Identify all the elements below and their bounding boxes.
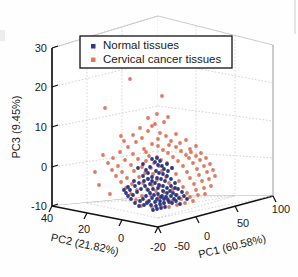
data-point	[181, 185, 185, 189]
data-point	[169, 177, 173, 181]
data-point	[154, 169, 158, 173]
data-point	[207, 177, 211, 181]
data-point	[169, 139, 173, 143]
data-point	[167, 205, 171, 209]
data-point	[141, 174, 145, 178]
data-point	[133, 184, 137, 188]
data-point	[163, 205, 167, 209]
data-point	[144, 159, 148, 163]
data-point	[213, 174, 217, 178]
left-edge-artifact	[0, 30, 5, 41]
data-point	[150, 124, 154, 128]
data-point	[136, 157, 140, 161]
data-point	[195, 167, 199, 171]
data-point	[166, 169, 170, 173]
data-point	[159, 206, 163, 210]
data-point	[155, 207, 159, 211]
data-point	[196, 193, 200, 197]
data-point	[198, 158, 202, 162]
data-point	[182, 194, 186, 198]
data-point	[138, 126, 142, 130]
y-tick-0: 40	[41, 212, 53, 224]
data-point	[137, 204, 141, 208]
data-point	[142, 179, 146, 183]
data-point	[178, 141, 182, 145]
data-point	[211, 168, 215, 172]
data-point	[208, 162, 212, 166]
data-point	[197, 173, 201, 177]
data-point	[129, 163, 133, 167]
data-point	[150, 142, 154, 146]
data-point	[180, 190, 184, 194]
data-point	[149, 203, 153, 207]
x-tick-1: 0	[204, 230, 210, 242]
data-point	[174, 132, 178, 136]
data-point	[110, 168, 114, 172]
data-point	[152, 193, 156, 197]
data-point	[164, 134, 168, 138]
z-tick-0: 30	[35, 42, 47, 54]
data-point	[191, 199, 195, 203]
data-point	[116, 164, 120, 168]
data-point	[150, 179, 154, 183]
data-point	[162, 120, 166, 124]
data-point	[119, 180, 123, 184]
data-point	[156, 144, 160, 148]
data-point	[165, 174, 169, 178]
data-point	[155, 112, 159, 116]
data-point	[131, 152, 135, 156]
data-point	[153, 200, 157, 204]
legend-label-cervical-cancer-tissues: Cervical cancer tissues	[103, 53, 221, 65]
data-point	[169, 184, 173, 188]
data-point	[170, 166, 174, 170]
z-tick-3: 0	[41, 161, 47, 173]
data-point	[174, 172, 178, 176]
data-point	[143, 184, 147, 188]
legend-box[interactable]: Normal tissues Cervical cancer tissues	[80, 36, 232, 68]
scatter3d-plot: 30 20 10 0 -10 PC3 (9.45%) 40 20 0 -20 P…	[0, 0, 298, 277]
data-point	[156, 137, 160, 141]
data-point	[166, 151, 170, 155]
data-point	[187, 156, 191, 160]
data-point	[204, 156, 208, 160]
data-point	[173, 181, 177, 185]
z-axis-title: PC3 (9.45%)	[10, 96, 22, 159]
data-point	[106, 161, 110, 165]
data-point	[139, 187, 143, 191]
data-point	[159, 177, 163, 181]
data-point	[137, 181, 141, 185]
data-point	[141, 162, 145, 166]
data-point	[151, 208, 155, 212]
data-point	[174, 199, 178, 203]
legend-marker-normal-tissues	[91, 44, 96, 49]
data-point	[144, 194, 148, 198]
data-point	[146, 116, 150, 120]
data-point	[144, 168, 148, 172]
data-point	[160, 194, 164, 198]
data-point	[160, 164, 164, 168]
data-point	[122, 188, 126, 192]
z-tick-2: 10	[35, 121, 47, 133]
data-point	[93, 170, 97, 174]
data-point	[202, 164, 206, 168]
z-tick-4: -10	[31, 200, 47, 212]
data-point	[183, 201, 187, 205]
data-point	[135, 190, 139, 194]
data-point	[178, 202, 182, 206]
data-point	[132, 179, 136, 183]
data-point	[137, 175, 141, 179]
data-point	[181, 164, 185, 168]
data-point	[161, 148, 165, 152]
data-point	[122, 139, 126, 143]
data-point	[185, 170, 189, 174]
data-point	[146, 129, 150, 133]
data-point	[129, 197, 133, 201]
data-point	[142, 203, 146, 207]
data-point	[179, 149, 183, 153]
data-point	[184, 138, 188, 142]
data-point	[161, 172, 165, 176]
data-point	[108, 192, 112, 196]
data-point	[185, 191, 189, 195]
data-point	[150, 157, 154, 161]
data-point	[163, 179, 167, 183]
